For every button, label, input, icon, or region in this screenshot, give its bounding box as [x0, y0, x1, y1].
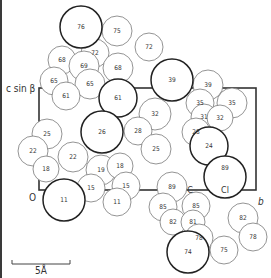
atom-height-label: 78 — [195, 234, 203, 242]
packing-figure: 7675727268696865656161393935353231322828… — [0, 0, 271, 278]
atom-height-label: 78 — [249, 233, 257, 241]
element-label-cl: Cl — [221, 185, 229, 195]
atom-height-label: 11 — [60, 196, 68, 204]
axis-label-c-sin-beta: c sin β — [6, 83, 36, 94]
atom-height-label: 74 — [184, 248, 192, 256]
atom-height-label: 76 — [77, 23, 85, 31]
atom-height-label: 28 — [134, 127, 142, 135]
atom-height-label: 61 — [62, 92, 70, 100]
atom-height-label: 31 — [200, 113, 208, 121]
atom-height-label: 32 — [151, 110, 159, 118]
scale-bar-label: 5Å — [35, 264, 48, 276]
atom-height-label: 15 — [87, 184, 95, 192]
atom-height-label: 25 — [152, 145, 160, 153]
atom-height-label: 85 — [192, 202, 200, 210]
atom-height-label: 39 — [204, 81, 212, 89]
atom-height-label: 18 — [42, 165, 50, 173]
atom-height-label: 82 — [239, 214, 247, 222]
atom-height-label: 39 — [168, 76, 176, 84]
scale-bar: 5Å — [12, 260, 70, 276]
atom-height-label: 15 — [122, 182, 130, 190]
atom-height-label: 24 — [205, 142, 213, 150]
atom-height-label: 61 — [114, 94, 122, 102]
atom-height-label: 89 — [168, 183, 176, 191]
atom-height-label: 68 — [114, 64, 122, 72]
origin-label: O — [29, 192, 36, 203]
atom-height-label: 35 — [228, 99, 236, 107]
atom-height-label: 22 — [29, 147, 37, 155]
atom-height-label: 69 — [80, 62, 88, 70]
atom-height-label: 85 — [159, 203, 167, 211]
atom-height-label: 72 — [91, 49, 99, 57]
crystal-structure-diagram: 7675727268696865656161393935353231322828… — [0, 0, 271, 278]
scale-bar-line — [12, 260, 70, 264]
axis-label-b: b — [258, 196, 264, 207]
atom-height-label: 75 — [220, 246, 228, 254]
atom-height-label: 18 — [116, 162, 124, 170]
atom-height-label: 82 — [169, 218, 177, 226]
atom-height-label: 89 — [221, 164, 229, 172]
atom-height-label: 75 — [113, 27, 121, 35]
element-label-c: C — [187, 185, 193, 195]
atom-height-label: 81 — [189, 218, 197, 226]
atom-height-label: 65 — [86, 80, 94, 88]
atom-height-label: 19 — [97, 166, 105, 174]
atom-height-label: 25 — [43, 130, 51, 138]
left-edge-bar — [0, 0, 2, 278]
atom-height-label: 22 — [69, 153, 77, 161]
atom-height-label: 35 — [196, 99, 204, 107]
atom-height-label: 32 — [216, 114, 224, 122]
atom-height-label: 65 — [50, 77, 58, 85]
atom-height-label: 11 — [113, 198, 121, 206]
atom-height-label: 26 — [98, 128, 106, 136]
atom-height-label: 68 — [58, 56, 66, 64]
atom-height-label: 72 — [145, 43, 153, 51]
atom-height-label: 28 — [192, 128, 200, 136]
atom-layer — [18, 6, 267, 273]
